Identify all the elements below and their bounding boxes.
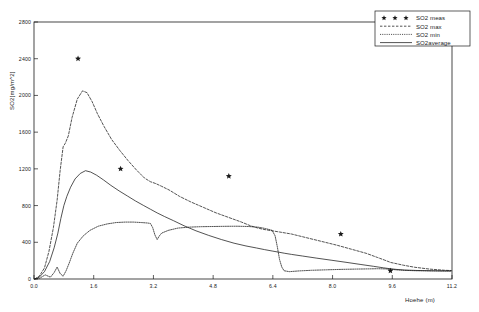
series-markers-so2-meas: [75, 56, 393, 274]
plot-frame: [34, 22, 452, 279]
x-tick-label: 6.4: [269, 283, 277, 289]
y-tick-label: 800: [22, 203, 31, 209]
chart-figure: 040080012001600200024002800 0.01.63.24.8…: [0, 0, 479, 312]
legend-label: SO2average: [416, 40, 451, 46]
x-tick-label: 1.6: [90, 283, 98, 289]
legend-label: SO2 max: [416, 24, 442, 30]
y-tick-label: 1200: [19, 166, 31, 172]
x-axis-title: Hoehe (m): [405, 297, 435, 303]
x-tick-label: 8.0: [329, 283, 337, 289]
data-point-marker: [118, 166, 124, 172]
y-tick-label: 2800: [19, 19, 31, 25]
data-point-marker: [338, 231, 344, 237]
series-line-so2-max: [35, 91, 452, 279]
y-axis-title: SO2[mg/m^2]: [9, 71, 15, 110]
y-tick-label: 400: [22, 239, 31, 245]
x-tick-label: 11.2: [447, 283, 457, 289]
y-tick-label: 0: [28, 276, 31, 282]
data-point-marker: [226, 173, 232, 179]
data-point-marker: [75, 56, 81, 62]
x-tick-label: 9.6: [388, 283, 396, 289]
y-axis-ticks: 040080012001600200024002800: [19, 19, 38, 282]
x-axis-ticks: 0.01.63.24.86.48.09.611.2: [30, 275, 457, 289]
y-tick-label: 2000: [19, 92, 31, 98]
x-tick-label: 3.2: [150, 283, 158, 289]
legend-label: SO2 min: [416, 32, 440, 38]
y-tick-label: 2400: [19, 56, 31, 62]
chart-svg: 040080012001600200024002800 0.01.63.24.8…: [0, 0, 479, 312]
legend-label: SO2 meas: [416, 15, 445, 21]
x-tick-label: 0.0: [30, 283, 38, 289]
y-tick-label: 1600: [19, 129, 31, 135]
x-tick-label: 4.8: [209, 283, 217, 289]
chart-legend: SO2 measSO2 maxSO2 minSO2average: [375, 11, 470, 46]
series-line-so2-average: [35, 171, 452, 279]
